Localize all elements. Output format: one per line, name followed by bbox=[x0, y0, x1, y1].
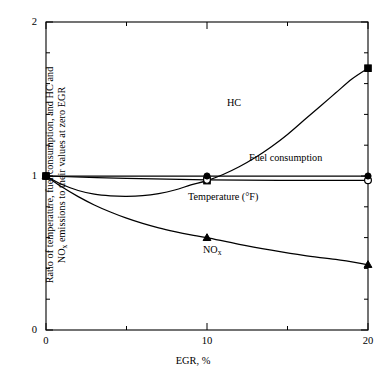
y-tick-label-2: 2 bbox=[11, 17, 37, 28]
y-tick-label-1: 1 bbox=[11, 171, 37, 182]
x-axis-title: EGR, % bbox=[0, 355, 386, 366]
plot-area bbox=[0, 0, 386, 379]
data-marker bbox=[204, 173, 210, 179]
data-marker bbox=[365, 173, 371, 179]
x-tick-label-0: 0 bbox=[26, 336, 66, 347]
series-label-hc: HC bbox=[227, 98, 241, 108]
series-label-nox: NOx bbox=[203, 245, 222, 258]
series-2 bbox=[43, 173, 371, 179]
y-tick-label-0: 0 bbox=[11, 325, 37, 336]
chart-figure: Ratio of temperature, fuel consumption, … bbox=[0, 0, 386, 379]
x-tick-label-10: 10 bbox=[187, 336, 227, 347]
series-label-nox-subscript: x bbox=[218, 248, 222, 257]
series-layer bbox=[42, 65, 372, 268]
series-label-temperature: Temperature (°F) bbox=[188, 192, 258, 202]
series-label-nox-text: NO bbox=[203, 244, 218, 255]
x-tick-label-20: 20 bbox=[348, 336, 386, 347]
data-marker bbox=[365, 65, 372, 72]
series-label-fuel-consumption: Fuel consumption bbox=[249, 153, 322, 163]
